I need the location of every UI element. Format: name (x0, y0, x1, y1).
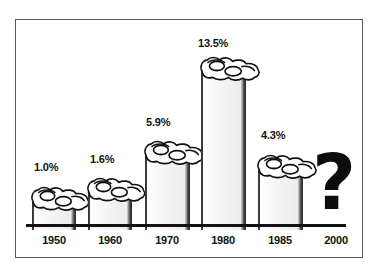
value-label-1960: 1.6% (90, 153, 114, 165)
x-tick-label-1960: 1960 (86, 234, 134, 246)
bar-1970 (145, 145, 190, 230)
x-tick-label-1980: 1980 (199, 234, 247, 246)
x-tick-label-2000: 2000 (312, 234, 360, 246)
value-label-1970: 5.9% (146, 116, 170, 128)
question-mark-icon: ? (312, 148, 356, 222)
plot-area: 1.0%1.6%5.9%13.5%4.3% 195019601970198019… (0, 0, 379, 276)
x-axis-baseline (26, 224, 346, 227)
x-tick-label-1985: 1985 (256, 234, 304, 246)
value-label-1950: 1.0% (34, 161, 58, 173)
chart-figure: 1.0%1.6%5.9%13.5%4.3% 195019601970198019… (0, 0, 379, 276)
value-label-1985: 4.3% (261, 129, 285, 141)
x-tick-label-1950: 1950 (30, 234, 78, 246)
bar-column-1970 (145, 151, 190, 230)
value-label-1980: 13.5% (198, 37, 228, 49)
bar-1980 (201, 61, 246, 230)
bar-1985 (258, 159, 303, 230)
bar-column-1980 (201, 67, 246, 230)
bar-column-1985 (258, 165, 303, 230)
bar-1960 (88, 182, 132, 230)
x-tick-label-1970: 1970 (143, 234, 191, 246)
